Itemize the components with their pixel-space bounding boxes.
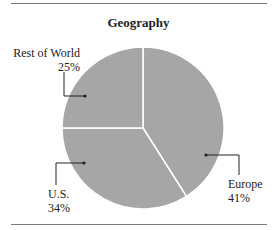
slice-value-label: 41% <box>228 191 250 205</box>
leader-dot <box>204 153 207 156</box>
bottom-rule <box>11 224 267 225</box>
slice-category-label: Rest of World <box>13 46 80 60</box>
leader-dot <box>83 94 86 97</box>
slice-category-label: Europe <box>228 177 263 191</box>
slice-category-label: U.S. <box>48 187 69 201</box>
leader-dot <box>82 161 85 164</box>
slice-value-label: 25% <box>58 60 80 74</box>
slice-value-label: 34% <box>48 201 70 215</box>
pie-chart: Europe41%U.S.34%Rest of World25% <box>0 0 277 230</box>
